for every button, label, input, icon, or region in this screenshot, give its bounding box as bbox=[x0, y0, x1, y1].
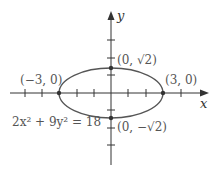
point-label-bottom: (0, −√2) bbox=[117, 120, 167, 134]
point-label-left: (−3, 0) bbox=[20, 73, 62, 87]
point-left bbox=[57, 91, 61, 95]
point-label-top: (0, √2) bbox=[117, 53, 157, 67]
equation-label: 2x² + 9y² = 18 bbox=[12, 115, 101, 129]
y-axis-label: y bbox=[116, 8, 125, 23]
x-axis-label: x bbox=[200, 96, 208, 111]
point-bottom bbox=[109, 116, 113, 120]
point-right bbox=[161, 91, 165, 95]
point-label-right: (3, 0) bbox=[165, 73, 197, 87]
y-axis-arrow-icon bbox=[108, 11, 115, 20]
point-top bbox=[109, 66, 113, 70]
ellipse-diagram: y x (0, √2) (0, −√2) (−3, 0) (3, 0) 2x² … bbox=[0, 0, 221, 172]
